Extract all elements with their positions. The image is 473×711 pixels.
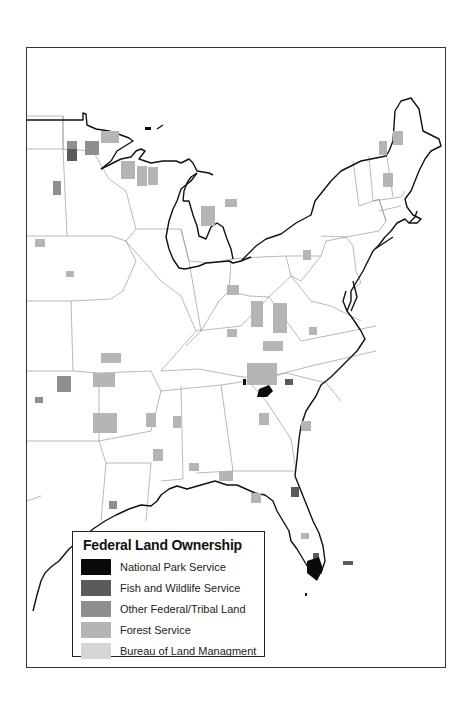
other-federal-tribal-lands (35, 141, 117, 509)
blm-swatch-icon (81, 643, 111, 659)
map-legend: Federal Land Ownership National Park Ser… (72, 531, 265, 657)
state-borders (27, 101, 405, 521)
legend-item-bureau-of-land-management: Bureau of Land Managment (81, 640, 256, 661)
legend-label: National Park Service (120, 561, 226, 573)
legend-item-fish-wildlife-service: Fish and Wildlife Service (81, 577, 256, 598)
forest-service-lands (35, 131, 403, 539)
legend-item-forest-service: Forest Service (81, 619, 256, 640)
legend-label: Other Federal/Tribal Land (120, 603, 246, 615)
national-park-service-lands (145, 127, 323, 596)
fish-wildlife-service-swatch-icon (81, 580, 111, 596)
other-federal-tribal-swatch-icon (81, 601, 111, 617)
legend-item-other-federal-tribal: Other Federal/Tribal Land (81, 598, 256, 619)
national-park-service-swatch-icon (81, 559, 111, 575)
legend-title: Federal Land Ownership (83, 537, 256, 553)
legend-item-national-park-service: National Park Service (81, 556, 256, 577)
legend-label: Bureau of Land Managment (120, 645, 256, 657)
forest-service-swatch-icon (81, 622, 111, 638)
legend-label: Forest Service (120, 624, 191, 636)
legend-label: Fish and Wildlife Service (120, 582, 240, 594)
